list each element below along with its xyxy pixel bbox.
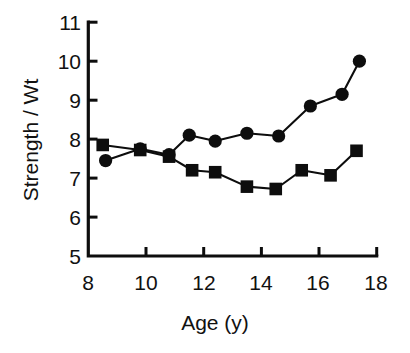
data-point-square: [134, 144, 147, 157]
data-point-circle: [209, 134, 222, 147]
data-point-circle: [183, 129, 196, 142]
y-axis-title: Strength / Wt: [19, 79, 42, 202]
data-point-square: [241, 180, 254, 193]
data-point-square: [186, 164, 199, 177]
data-point-square: [324, 169, 337, 182]
x-tick-label: 16: [306, 271, 329, 294]
data-series-layer: [96, 55, 366, 196]
data-point-square: [209, 166, 222, 179]
x-tick-label: 18: [364, 271, 387, 294]
data-point-square: [269, 183, 282, 196]
x-tick-label: 8: [82, 271, 94, 294]
data-point-circle: [272, 129, 285, 142]
y-tick-label: 6: [69, 206, 81, 229]
y-tick-label: 10: [58, 50, 81, 73]
data-point-square: [350, 144, 363, 157]
y-tick-label: 5: [69, 245, 81, 268]
y-tick-label: 8: [69, 128, 81, 151]
y-tick-label: 7: [69, 167, 81, 190]
axis-spine: [88, 22, 376, 256]
data-point-circle: [304, 99, 317, 112]
x-tick-label: 10: [134, 271, 157, 294]
plot-canvas: Strength / Wt Age (y) 11 10 9 8 7 6 5 8 …: [0, 0, 410, 353]
x-tick-label: 14: [249, 271, 273, 294]
chart-figure: Strength / Wt Age (y) 11 10 9 8 7 6 5 8 …: [0, 0, 410, 353]
x-tick-label: 12: [192, 271, 215, 294]
data-point-circle: [335, 88, 348, 101]
data-point-square: [295, 164, 308, 177]
series-square: [96, 139, 362, 196]
data-point-circle: [240, 127, 253, 140]
data-point-circle: [99, 154, 112, 167]
data-point-square: [163, 150, 176, 163]
x-tick-labels: 8 10 12 14 16 18: [82, 271, 388, 294]
y-tick-label: 9: [69, 89, 81, 112]
y-tick-labels: 11 10 9 8 7 6 5: [58, 11, 81, 268]
y-tick-label: 11: [59, 11, 81, 34]
data-point-circle: [353, 55, 366, 68]
x-axis-title: Age (y): [181, 311, 249, 334]
data-point-square: [96, 139, 109, 152]
